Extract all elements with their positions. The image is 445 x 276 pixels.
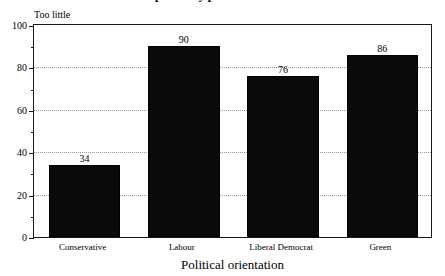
bar-labour — [148, 46, 219, 237]
panel-strip-label: Too little — [34, 9, 70, 21]
x-axis-title: Political orientation — [33, 257, 432, 272]
bar-value-label-green: 86 — [347, 43, 418, 54]
bar-value-label-labour: 90 — [148, 34, 219, 45]
x-tick-label-green: Green — [331, 242, 430, 253]
x-tick-label-liberal-democrat: Liberal Democrat — [232, 242, 331, 253]
plot-area: 020406080100 34907686 — [33, 24, 432, 238]
y-tick-20 — [29, 196, 34, 197]
y-tick-minor-90 — [31, 47, 34, 48]
bar-liberal-democrat — [247, 76, 318, 237]
y-tick-label-0: 0 — [22, 233, 27, 243]
y-tick-0 — [29, 238, 34, 239]
bar-conservative — [49, 165, 120, 237]
bar-green — [347, 55, 418, 237]
y-tick-label-60: 60 — [17, 106, 27, 116]
y-tick-label-100: 100 — [12, 21, 27, 31]
y-tick-label-80: 80 — [17, 63, 27, 73]
y-tick-label-20: 20 — [17, 191, 27, 201]
bar-value-label-conservative: 34 — [49, 153, 120, 164]
y-tick-60 — [29, 111, 34, 112]
y-tick-minor-10 — [31, 217, 34, 218]
x-tick-label-labour: Labour — [132, 242, 231, 253]
y-tick-minor-30 — [31, 174, 34, 175]
y-tick-label-40: 40 — [17, 148, 27, 158]
y-tick-40 — [29, 153, 34, 154]
chart-title: Responses by political orientation — [0, 0, 445, 2]
y-tick-80 — [29, 68, 34, 69]
bar-chart-figure: Responses by political orientation Too l… — [0, 0, 445, 276]
x-tick-label-conservative: Conservative — [33, 242, 132, 253]
y-tick-100 — [29, 26, 34, 27]
y-tick-minor-70 — [31, 90, 34, 91]
bar-value-label-liberal-democrat: 76 — [247, 64, 318, 75]
y-tick-minor-50 — [31, 132, 34, 133]
